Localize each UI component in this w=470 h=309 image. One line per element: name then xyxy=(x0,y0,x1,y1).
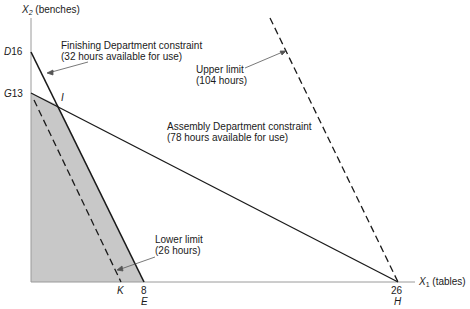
lower-limit-annotation-line2: (26 hours) xyxy=(155,245,203,256)
point-i-label: I xyxy=(61,92,64,103)
finishing-annotation-line1: Finishing Department constraint xyxy=(61,40,202,51)
feasible-region xyxy=(31,93,144,282)
finishing-annotation-line2: (32 hours available for use) xyxy=(61,51,202,62)
point-d-label: D16 xyxy=(4,46,22,57)
point-e-label: E xyxy=(141,296,148,307)
x-axis-unit: (tables) xyxy=(432,276,465,287)
x-axis-label: X1 (tables) xyxy=(419,276,466,290)
lower-limit-annotation-line1: Lower limit xyxy=(155,234,203,245)
upper-limit-annotation-line2: (104 hours) xyxy=(196,75,247,86)
point-e-value: 8 xyxy=(141,285,147,296)
y-axis-sub: 2 xyxy=(29,9,33,16)
y-axis-label: X2 (benches) xyxy=(22,4,80,18)
upper-limit-annotation: Upper limit (104 hours) xyxy=(196,64,247,86)
point-h-value: 26 xyxy=(391,285,402,296)
upper-limit-leader-arrow xyxy=(245,51,286,68)
finishing-annotation: Finishing Department constraint (32 hour… xyxy=(61,40,202,62)
x-axis-var: X xyxy=(419,276,426,287)
point-g-label: G13 xyxy=(4,88,23,99)
upper-limit-annotation-line1: Upper limit xyxy=(196,64,247,75)
assembly-annotation-line1: Assembly Department constraint xyxy=(167,121,312,132)
lower-limit-annotation: Lower limit (26 hours) xyxy=(155,234,203,256)
assembly-annotation-line2: (78 hours available for use) xyxy=(167,132,312,143)
x-axis-sub: 1 xyxy=(426,281,430,288)
y-axis-unit: (benches) xyxy=(35,4,79,15)
upper-limit-line xyxy=(270,18,398,282)
y-axis-var: X xyxy=(22,4,29,15)
point-h-label: H xyxy=(394,296,401,307)
point-k-label: K xyxy=(117,285,124,296)
assembly-annotation: Assembly Department constraint (78 hours… xyxy=(167,121,312,143)
finishing-leader-arrow xyxy=(47,62,88,75)
